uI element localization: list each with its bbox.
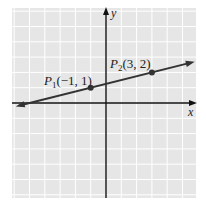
point-p1-label: P1(−1, 1) (43, 73, 92, 90)
coordinate-plot: x y P1(−1, 1) P2(3, 2) (0, 0, 206, 213)
y-axis-label: y (110, 6, 117, 20)
x-axis-label: x (187, 105, 194, 119)
point-p2-label: P2(3, 2) (109, 56, 151, 73)
